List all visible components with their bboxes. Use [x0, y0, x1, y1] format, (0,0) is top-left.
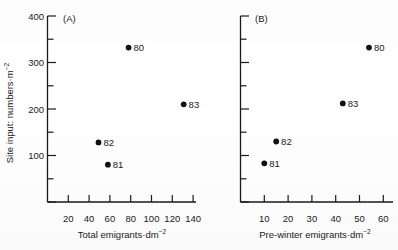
y-axis-title: Site input: numbers·m−2	[3, 62, 15, 163]
panel-b-x-axis-title-unit: dm	[350, 229, 363, 240]
data-point-label: 80	[374, 42, 385, 53]
panel-a-x-tick-label-100: 100	[144, 213, 160, 224]
data-point-label: 81	[113, 159, 124, 170]
y-axis-group: 400 300 200 100 Site input: numbers·m−2	[3, 11, 56, 203]
data-point-label: 81	[269, 158, 280, 169]
panel-b-y-ticks	[241, 16, 250, 202]
data-point-81-panel-a[interactable]: 81	[105, 159, 123, 170]
panel-a-x-tick-label-20: 20	[63, 213, 74, 224]
panel-b-x-tick-label-30: 30	[307, 213, 318, 224]
data-point-83-panel-a[interactable]: 83	[181, 99, 199, 110]
panel-b-data-points: 80 83 82 81	[261, 42, 384, 169]
panel-a-x-tick-label-40: 40	[84, 213, 95, 224]
panel-a-data-points: 80 83 82 81	[96, 42, 200, 170]
data-point-82-panel-b[interactable]: 82	[273, 136, 291, 147]
panel-a: (A) 20 40 60 80 100 120 140	[48, 13, 202, 240]
panel-b-x-tick-labels: 10 20 30 40 50 60	[259, 213, 389, 224]
y-axis-tick-labels: 400 300 200 100	[28, 11, 44, 162]
y-tick-label-100: 100	[28, 150, 44, 161]
data-point-82-panel-a[interactable]: 82	[96, 137, 114, 148]
panel-a-x-tick-label-80: 80	[125, 213, 136, 224]
data-point-80-panel-a[interactable]: 80	[126, 42, 144, 53]
y-axis-title-unit: m	[4, 70, 15, 78]
data-point-label: 80	[134, 42, 145, 53]
data-point-label: 82	[281, 136, 292, 147]
panel-b-x-tick-label-60: 60	[378, 213, 389, 224]
panel-b-x-tick-label-40: 40	[330, 213, 341, 224]
data-point-81-panel-b[interactable]: 81	[261, 158, 279, 169]
svg-text:Site input: numbers·m−2: Site input: numbers·m−2	[3, 62, 15, 163]
panel-a-label: (A)	[63, 13, 76, 24]
data-point-label: 83	[189, 99, 200, 110]
y-axis-ticks	[48, 16, 57, 202]
panel-a-x-tick-label-60: 60	[105, 213, 116, 224]
panel-b-x-ticks	[264, 195, 383, 202]
data-point-80-panel-b[interactable]: 80	[366, 42, 384, 53]
panel-a-x-ticks	[68, 195, 193, 202]
panel-a-x-tick-label-120: 120	[164, 213, 180, 224]
y-tick-label-300: 300	[28, 57, 44, 68]
panel-a-x-axis-title: Total emigrants·dm−2	[78, 228, 167, 240]
panel-b-x-axis-title-exponent: −2	[363, 228, 371, 235]
panel-a-x-axis-title-main: Total emigrants	[78, 229, 143, 240]
data-point-83-panel-b[interactable]: 83	[340, 98, 358, 109]
figure-canvas: 400 300 200 100 Site input: numbers·m−2 …	[0, 0, 398, 250]
panel-b-x-tick-label-50: 50	[354, 213, 365, 224]
y-tick-label-200: 200	[28, 104, 44, 115]
y-axis-title-main: Site input: numbers	[4, 81, 15, 163]
panel-a-x-tick-labels: 20 40 60 80 100 120 140	[63, 213, 201, 224]
panel-a-x-axis-title-unit: dm	[145, 229, 158, 240]
data-point-label: 82	[103, 137, 114, 148]
panel-b-x-axis-title: Pre-winter emigrants·dm−2	[259, 228, 371, 240]
y-axis-title-exponent: −2	[3, 62, 10, 70]
scatter-figure: 400 300 200 100 Site input: numbers·m−2 …	[0, 0, 398, 250]
panel-b-label: (B)	[255, 13, 268, 24]
data-point-label: 83	[348, 98, 359, 109]
panel-b-x-axis-title-main: Pre-winter emigrants	[259, 229, 347, 240]
panel-a-x-tick-label-140: 140	[185, 213, 201, 224]
panel-b-x-tick-label-20: 20	[283, 213, 294, 224]
panel-b: (B)	[241, 13, 394, 240]
panel-b-x-tick-label-10: 10	[259, 213, 270, 224]
panel-a-x-axis-title-exponent: −2	[159, 228, 167, 235]
y-tick-label-400: 400	[28, 11, 44, 22]
